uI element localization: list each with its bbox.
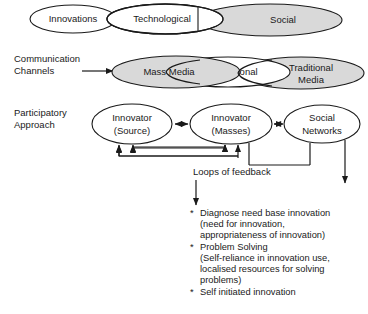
oval-social-networks-label-line2: Networks xyxy=(302,125,342,136)
outcome-2-line-1: Problem Solving xyxy=(200,242,268,252)
oval-traditional-media-label-line2: Media xyxy=(298,74,325,85)
oval-traditional-media-label-line1: Traditional xyxy=(289,62,333,73)
diagram-canvas: Innovations Social Technological Communi… xyxy=(0,0,368,314)
oval-innovator-masses-label-line1: Innovator xyxy=(211,112,251,123)
outcome-2-line-3: localised resources for solving xyxy=(200,264,325,274)
outcome-2-line-2: (Self-reliance in innovation use, xyxy=(200,253,330,263)
participatory-approach-diagram: Innovations Social Technological Communi… xyxy=(0,0,368,314)
row-label-communication-line2: Channels xyxy=(14,65,54,76)
oval-innovator-masses-label-line2: (Masses) xyxy=(211,125,250,136)
row-label-participatory-line2: Approach xyxy=(14,119,55,130)
outcome-bullet-marker-1: * xyxy=(190,208,194,218)
row-label-communication-line1: Communication xyxy=(14,53,80,64)
oval-innovator-source-label-line2: (Source) xyxy=(114,125,150,136)
outcome-2-line-4: problems) xyxy=(200,275,241,285)
oval-social-label: Social xyxy=(270,14,296,25)
outcome-bullet-marker-2: * xyxy=(190,242,194,252)
loops-of-feedback-label: Loops of feedback xyxy=(193,166,271,177)
outcome-1-line-3: appropriateness of innovation) xyxy=(200,230,325,240)
outcome-1-line-2: (need for innovation, xyxy=(200,219,285,229)
oval-technological-label: Technological xyxy=(133,13,191,24)
outcome-bullet-marker-3: * xyxy=(190,287,194,297)
row-label-participatory-line1: Participatory xyxy=(14,107,67,118)
oval-social-networks-label-line1: Social xyxy=(309,112,335,123)
outcome-1-line-1: Diagnose need base innovation xyxy=(200,208,330,218)
outcome-3-line-1: Self initiated innovation xyxy=(200,287,296,297)
oval-innovator-source-label-line1: Innovator xyxy=(112,112,152,123)
oval-innovations-label: Innovations xyxy=(49,13,98,24)
